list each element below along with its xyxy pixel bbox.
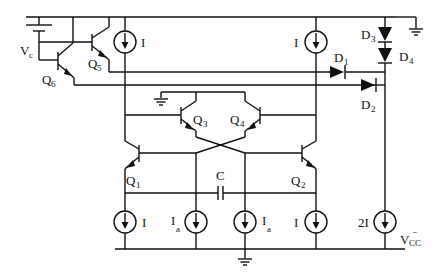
bottom-current-sources: I I a I a I 2I xyxy=(114,211,396,249)
svg-text:D: D xyxy=(334,50,343,65)
svg-text:I: I xyxy=(171,213,175,228)
svg-text:C: C xyxy=(216,168,225,183)
svg-text:I: I xyxy=(262,213,266,228)
svg-text:CC: CC xyxy=(409,238,421,248)
svg-text:4: 4 xyxy=(409,56,414,66)
svg-text:5: 5 xyxy=(97,63,102,73)
transistor-q5: Q 5 xyxy=(39,17,330,73)
svg-text:I: I xyxy=(141,35,145,50)
svg-text:−: − xyxy=(412,227,417,237)
svg-text:4: 4 xyxy=(240,119,245,129)
circuit-schematic: V c Q 6 Q 5 I xyxy=(0,0,443,279)
svg-text:D: D xyxy=(361,97,370,112)
svg-text:3: 3 xyxy=(371,34,376,44)
transistor-q1: Q 1 xyxy=(125,141,196,211)
diode-d3-d4: D 3 D 4 xyxy=(361,17,423,211)
ground-icon xyxy=(238,259,252,265)
svg-text:2: 2 xyxy=(371,104,376,114)
right-branch: I xyxy=(294,17,327,141)
diode-d1: D 1 xyxy=(330,50,385,79)
svg-text:1: 1 xyxy=(136,180,141,190)
diode-d2: D 2 xyxy=(361,78,385,114)
svg-text:D: D xyxy=(399,49,408,64)
svg-text:Q: Q xyxy=(230,112,240,127)
svg-text:I: I xyxy=(294,35,298,50)
transistor-q2: Q 2 xyxy=(245,141,316,211)
svg-text:Q: Q xyxy=(193,112,203,127)
ground-icon xyxy=(154,99,168,105)
voltage-source-vc: V c xyxy=(20,17,52,60)
transistor-q6: Q 6 xyxy=(39,17,376,89)
svg-text:a: a xyxy=(267,224,271,234)
svg-text:I: I xyxy=(142,215,146,230)
left-branch: I xyxy=(114,17,145,141)
svg-text:c: c xyxy=(29,50,33,60)
transistor-q4: Q 4 xyxy=(230,101,316,137)
q3-q4-collector-ground xyxy=(154,92,245,105)
ground-icon xyxy=(409,29,423,35)
svg-text:I: I xyxy=(294,215,298,230)
svg-text:Q: Q xyxy=(291,173,301,188)
svg-text:a: a xyxy=(176,224,180,234)
svg-text:3: 3 xyxy=(203,119,208,129)
svg-text:Q: Q xyxy=(126,173,136,188)
svg-text:1: 1 xyxy=(344,57,349,67)
cross-coupling xyxy=(196,137,245,153)
svg-text:2: 2 xyxy=(301,180,306,190)
svg-text:D: D xyxy=(361,27,370,42)
transistor-q3: Q 3 xyxy=(125,101,208,137)
capacitor-c: C xyxy=(125,168,316,200)
svg-text:6: 6 xyxy=(51,79,56,89)
svg-text:2I: 2I xyxy=(358,215,369,230)
